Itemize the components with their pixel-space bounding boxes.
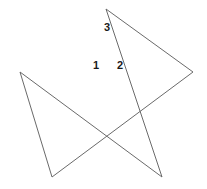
angle-label-3: 3 bbox=[104, 22, 110, 33]
angle-label-2: 2 bbox=[117, 60, 123, 71]
angle-label-1: 1 bbox=[93, 60, 99, 71]
pentagram-figure: 1 2 3 bbox=[0, 0, 207, 189]
